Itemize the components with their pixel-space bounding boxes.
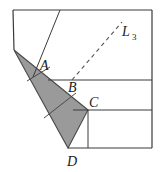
label-a: A: [39, 58, 49, 73]
label-b: B: [68, 80, 77, 95]
label-d: D: [66, 154, 77, 169]
geometry-figure: A B C D L 3: [0, 0, 160, 172]
dashed-line-l3: [72, 22, 122, 80]
shaded-triangle: [14, 50, 88, 148]
label-l3-subscript: 3: [132, 32, 137, 42]
label-c: C: [89, 95, 99, 110]
label-l3: L: [121, 24, 130, 39]
geometry-canvas: A B C D L 3: [0, 0, 160, 172]
left-edge: [13, 10, 14, 50]
